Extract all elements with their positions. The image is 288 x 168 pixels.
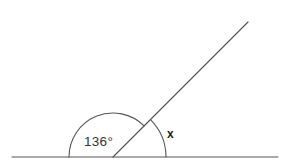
angle-diagram-canvas: 136° x xyxy=(0,0,288,168)
angle-arc-x xyxy=(150,120,166,157)
angle-label-136: 136° xyxy=(84,134,113,149)
slanted-ray-line xyxy=(113,22,248,157)
geometry-figure: 136° x xyxy=(0,0,288,168)
angle-label-x: x xyxy=(167,127,174,141)
